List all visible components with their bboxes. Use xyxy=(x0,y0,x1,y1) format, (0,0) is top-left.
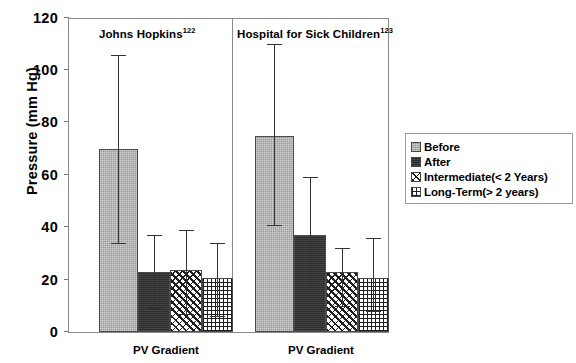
legend-label-intermediate: Intermediate(< 2 Years) xyxy=(424,171,548,183)
legend-item-long-term: Long-Term(> 2 years) xyxy=(411,184,566,199)
errorbar-hospital-sick-children-long-term-cap-bottom xyxy=(366,311,381,312)
y-tick-label: 100 xyxy=(33,62,58,78)
y-tick-label: 120 xyxy=(33,10,58,26)
errorbar-hospital-sick-children-long-term-stem xyxy=(373,238,374,311)
chart-legend: Before After Intermediate(< 2 Years) Lon… xyxy=(405,133,573,204)
y-axis-spine xyxy=(68,18,69,333)
legend-item-after: After xyxy=(411,154,566,169)
errorbar-johns-hopkins-after-cap-top xyxy=(147,235,162,236)
errorbar-hospital-sick-children-before-cap-bottom xyxy=(267,225,282,226)
errorbar-johns-hopkins-intermediate-cap-top xyxy=(179,230,194,231)
errorbar-hospital-sick-children-intermediate-cap-bottom xyxy=(335,306,350,307)
errorbar-johns-hopkins-intermediate-stem xyxy=(186,230,187,314)
panel-title-superscript: 122 xyxy=(183,26,196,35)
y-tick-label: 0 xyxy=(50,324,58,340)
errorbar-johns-hopkins-intermediate-cap-bottom xyxy=(179,314,194,315)
legend-swatch-after-icon xyxy=(411,157,421,167)
y-tick-label: 60 xyxy=(41,167,58,183)
errorbar-hospital-sick-children-before-stem xyxy=(274,44,275,225)
y-tick-label: 40 xyxy=(41,219,58,235)
y-tick-label: 80 xyxy=(41,114,58,130)
legend-item-before: Before xyxy=(411,139,566,154)
x-axis-label-johns-hopkins: PV Gradient xyxy=(101,344,231,356)
legend-swatch-long-term-icon xyxy=(411,187,421,197)
plot-top-border xyxy=(68,18,389,19)
errorbar-hospital-sick-children-long-term-cap-top xyxy=(366,238,381,239)
legend-swatch-intermediate-icon xyxy=(411,172,421,182)
legend-label-after: After xyxy=(424,156,450,168)
panel-title-text: Hospital for Sick Children xyxy=(237,28,380,40)
panel-title-hospital-for-sick-children: Hospital for Sick Children123 xyxy=(237,26,393,40)
x-axis-baseline xyxy=(68,332,389,333)
panel-title-text: Johns Hopkins xyxy=(99,28,183,40)
x-axis-label-hospital-sick-children: PV Gradient xyxy=(256,344,386,356)
y-tick-label: 20 xyxy=(41,272,58,288)
errorbar-hospital-sick-children-after-stem xyxy=(310,177,311,287)
errorbar-johns-hopkins-after-stem xyxy=(154,235,155,308)
errorbar-johns-hopkins-after-cap-bottom xyxy=(147,308,162,309)
legend-item-intermediate: Intermediate(< 2 Years) xyxy=(411,169,566,184)
errorbar-hospital-sick-children-intermediate-stem xyxy=(342,248,343,306)
errorbar-johns-hopkins-long-term-cap-top xyxy=(210,243,225,244)
panel-title-superscript: 123 xyxy=(380,26,393,35)
panel-title-johns-hopkins: Johns Hopkins122 xyxy=(99,26,196,40)
legend-label-long-term: Long-Term(> 2 years) xyxy=(424,186,538,198)
legend-swatch-before-icon xyxy=(411,142,421,152)
errorbar-hospital-sick-children-intermediate-cap-top xyxy=(335,248,350,249)
errorbar-johns-hopkins-before-cap-bottom xyxy=(111,243,126,244)
errorbar-johns-hopkins-long-term-cap-bottom xyxy=(210,316,225,317)
errorbar-johns-hopkins-before-stem xyxy=(118,55,119,243)
legend-label-before: Before xyxy=(424,141,460,153)
errorbar-hospital-sick-children-after-cap-bottom xyxy=(303,287,318,288)
errorbar-hospital-sick-children-after-cap-top xyxy=(303,177,318,178)
errorbar-johns-hopkins-before-cap-top xyxy=(111,55,126,56)
chart-figure: Pressure (mm Hg) 120 100 80 60 40 20 0 J… xyxy=(0,0,576,363)
errorbar-johns-hopkins-long-term-stem xyxy=(217,243,218,316)
errorbar-hospital-sick-children-before-cap-top xyxy=(267,44,282,45)
